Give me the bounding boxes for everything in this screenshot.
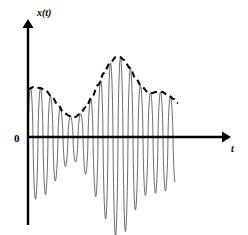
y-axis-arrowhead: [23, 19, 34, 28]
origin-label: 0: [14, 133, 20, 144]
oscillating-signal-path: [28, 57, 175, 235]
signal-plot-figure: x(t) t 0: [0, 0, 248, 235]
plot-canvas: [0, 0, 248, 235]
y-axis-label: x(t): [37, 8, 51, 18]
carrier-waveform-group: [28, 57, 175, 235]
envelope-group: [28, 57, 178, 117]
x-axis-arrowhead: [222, 132, 231, 143]
x-axis-label: t: [231, 144, 234, 154]
amplitude-envelope-path: [28, 57, 178, 117]
